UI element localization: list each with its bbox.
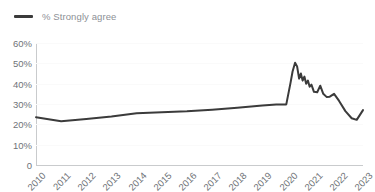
x-axis-tick-label: 2019 [251, 170, 274, 192]
line-chart: % Strongly agree 60%50%40%30%20%10%0 201… [0, 0, 375, 192]
y-axis-tick-label: 50% [13, 58, 32, 69]
legend-label: % Strongly agree [42, 11, 116, 22]
x-axis-tick-label: 2017 [201, 170, 224, 192]
x-axis-tick-label: 2010 [25, 170, 48, 192]
x-axis-tick-label: 2022 [327, 170, 350, 192]
x-axis-tick-label: 2014 [126, 170, 149, 192]
y-axis-tick-label: 40% [13, 78, 32, 89]
x-axis-tick-label: 2018 [226, 170, 249, 192]
x-axis-tick-label: 2021 [302, 170, 325, 192]
y-axis-tick-label: 60% [13, 38, 32, 49]
y-axis-tick-label: 30% [13, 99, 32, 110]
x-axis-tick-label: 2013 [101, 170, 124, 192]
y-axis-tick-label: 20% [13, 119, 32, 130]
series-line [36, 63, 363, 122]
y-axis-tick-label: 10% [13, 139, 32, 150]
x-axis-tick-labels: 2010201120122013201420152016201720182019… [0, 168, 375, 192]
x-axis-tick-label: 2023 [352, 170, 375, 192]
x-axis-line [36, 165, 363, 166]
x-axis-tick-label: 2020 [277, 170, 300, 192]
series-strongly-agree [36, 43, 363, 165]
x-axis-tick-label: 2011 [51, 170, 73, 192]
legend-line-swatch-icon [14, 15, 33, 18]
y-axis-tick-labels: 60%50%40%30%20%10%0 [0, 43, 32, 165]
chart-legend: % Strongly agree [14, 9, 116, 23]
x-axis-tick-label: 2015 [151, 170, 174, 192]
x-axis-tick-label: 2012 [75, 170, 98, 192]
x-axis-tick-label: 2016 [176, 170, 199, 192]
plot-area [36, 43, 363, 165]
